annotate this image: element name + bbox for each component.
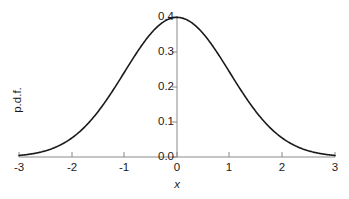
y-axis-label: p.d.f. [11,87,23,113]
x-tick-label--2: -2 [67,162,77,174]
x-tick-label-3: 3 [332,162,338,174]
x-tick-label-1: 1 [226,162,232,174]
y-tick-label-0-3: 0.3 [158,46,174,58]
x-axis-ticks [19,152,335,157]
y-tick-label-0-0: 0.0 [158,151,174,163]
x-tick-label-2: 2 [279,162,285,174]
x-tick-label-0: 0 [174,162,180,174]
y-tick-label-0-1: 0.1 [158,116,174,128]
x-axis-label: x [174,178,180,190]
chart-figure: -3 -2 -1 0 1 2 3 0.0 0.1 0.2 0.3 0.4 p.d… [0,0,349,199]
y-tick-label-0-4: 0.4 [158,11,174,23]
x-tick-label--1: -1 [119,162,129,174]
x-tick-label--3: -3 [14,162,24,174]
y-tick-label-0-2: 0.2 [158,81,174,93]
